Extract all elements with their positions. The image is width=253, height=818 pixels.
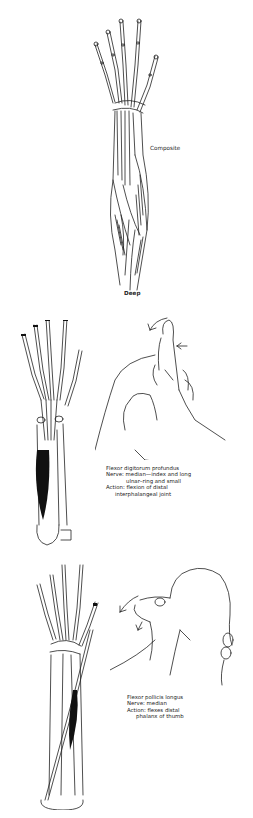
forearm-muscles-drawing bbox=[85, 15, 195, 295]
deep-label: Deep bbox=[124, 290, 140, 296]
fpl-hand-test-illustration bbox=[110, 560, 240, 690]
fpl-skeleton-drawing bbox=[35, 560, 110, 810]
fdp-skeleton-drawing bbox=[15, 320, 90, 550]
fpl-caption: Flexor pollicis longus Nerve: median Act… bbox=[127, 694, 184, 720]
fpl-hand-drawing bbox=[110, 560, 240, 690]
fpl-forearm-illustration bbox=[35, 560, 110, 810]
fdp-forearm-illustration bbox=[15, 320, 90, 550]
fdp-muscle-highlight bbox=[36, 450, 50, 520]
composite-label: Composite bbox=[150, 145, 180, 151]
fdp-hand-test-illustration bbox=[95, 310, 235, 460]
fdp-nerve-line1: Nerve: median—index and long bbox=[106, 471, 191, 477]
fdp-action-line2: interphalangeal joint bbox=[106, 491, 191, 497]
composite-forearm-illustration bbox=[85, 15, 195, 295]
fpl-action-line2: phalanx of thumb bbox=[127, 713, 184, 719]
fdp-hand-drawing bbox=[95, 310, 235, 460]
fdp-caption: Flexor digitorum profundus Nerve: median… bbox=[106, 465, 191, 497]
